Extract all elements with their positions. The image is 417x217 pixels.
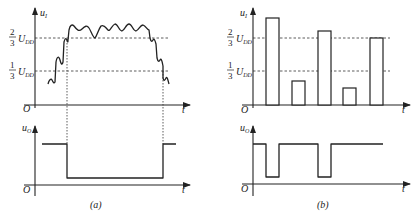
svg-text:UDD: UDD [18, 33, 35, 45]
svg-text:UDD: UDD [236, 66, 253, 78]
panel-a-output-time-label: t [182, 184, 185, 195]
panel-a-input-signal [48, 24, 169, 84]
svg-text:3: 3 [228, 71, 233, 81]
panel-b-pulse-2 [292, 81, 305, 105]
panel-b-pulse-3 [318, 31, 331, 105]
panel-b-threshold-one-third: 1 3 UDD [227, 60, 253, 81]
svg-text:2: 2 [10, 27, 15, 37]
panel-b-pulse-1 [266, 18, 279, 105]
panel-b-output-signal [253, 144, 383, 177]
panel-b-input-origin: O [241, 104, 248, 115]
svg-text:3: 3 [10, 38, 15, 48]
panel-a-input-axis-label: uI [40, 7, 48, 19]
svg-text:UDD: UDD [236, 33, 253, 45]
panel-b-pulse-5 [370, 38, 383, 105]
svg-text:UDD: UDD [18, 66, 35, 78]
panel-b-input-graph: uI O t 2 3 UDD 1 3 UDD [227, 7, 410, 115]
panel-b-output-origin: O [241, 183, 248, 194]
svg-text:1: 1 [10, 60, 15, 70]
panel-a-input-graph: uI O t 2 3 UDD 1 3 UDD [9, 7, 190, 144]
panel-a-output-axis-label: uO [22, 122, 32, 134]
panel-a-output-signal [42, 144, 176, 178]
panel-b-threshold-two-thirds: 2 3 UDD [227, 27, 253, 48]
panel-a-output-origin: O [23, 184, 30, 195]
svg-text:1: 1 [228, 60, 233, 70]
panel-a-output-graph: uO O t [22, 122, 190, 196]
panel-b-input-time-label: t [402, 104, 405, 115]
panel-a-threshold-one-third: 1 3 UDD [9, 60, 35, 81]
panel-a-caption: (a) [90, 199, 102, 211]
panel-a-threshold-two-thirds: 2 3 UDD [9, 27, 35, 48]
panel-b: uI O t 2 3 UDD 1 3 UDD [227, 7, 410, 211]
panel-b-caption: (b) [317, 199, 329, 211]
svg-text:3: 3 [228, 38, 233, 48]
panel-b-output-axis-label: uO [240, 122, 250, 134]
panel-a-input-origin: O [23, 103, 30, 114]
schmitt-trigger-waveform-diagram: uI O t 2 3 UDD 1 3 UDD [0, 0, 417, 217]
svg-text:2: 2 [228, 27, 233, 37]
panel-b-output-graph: uO O t [240, 122, 410, 196]
svg-text:3: 3 [10, 71, 15, 81]
panel-a-input-time-label: t [182, 104, 185, 115]
panel-b-output-time-label: t [402, 183, 405, 194]
panel-b-input-axis-label: uI [240, 7, 248, 19]
panel-b-pulse-4 [343, 88, 356, 105]
panel-a: uI O t 2 3 UDD 1 3 UDD [9, 7, 190, 211]
